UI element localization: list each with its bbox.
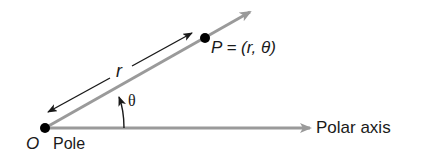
- polar-diagram: O Pole r θ P = (r, θ) Polar axis: [0, 0, 426, 162]
- point-p-label: P = (r, θ): [211, 39, 276, 56]
- origin-label: O: [26, 135, 39, 152]
- point-p-icon: [200, 33, 210, 43]
- angle-label: θ: [128, 93, 136, 109]
- pole-label: Pole: [53, 136, 85, 152]
- polar-axis-label: Polar axis: [316, 119, 391, 136]
- radius-label: r: [116, 62, 122, 80]
- point-p-label-text: P = (r, θ): [211, 38, 276, 57]
- ray-line: [45, 12, 250, 128]
- pole-point-icon: [40, 123, 50, 133]
- angle-arc: [119, 97, 124, 128]
